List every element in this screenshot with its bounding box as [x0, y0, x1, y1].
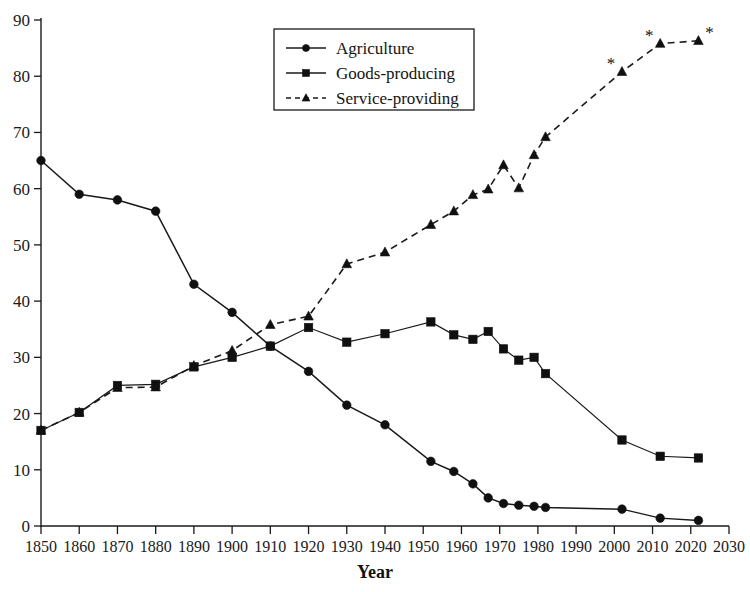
projected-value-asterisk: * [607, 54, 616, 73]
x-tick-label: 2000 [598, 538, 630, 555]
y-tick-label: 10 [13, 461, 30, 480]
data-point-circle [75, 190, 84, 199]
y-tick-label: 90 [13, 11, 30, 30]
data-point-triangle [514, 183, 524, 192]
data-point-square [469, 335, 477, 343]
y-tick-label: 60 [13, 180, 30, 199]
data-point-triangle [617, 67, 627, 76]
data-point-circle [228, 308, 237, 317]
y-tick-label: 80 [13, 67, 30, 86]
data-point-circle [151, 207, 160, 216]
legend-label: Goods-producing [336, 64, 455, 83]
data-point-square [484, 327, 492, 335]
data-point-triangle [266, 320, 276, 329]
x-tick-label: 1970 [484, 538, 516, 555]
y-tick-label: 30 [13, 348, 30, 367]
y-axis: 0102030405060708090 [13, 11, 41, 536]
y-tick-label: 20 [13, 405, 30, 424]
x-axis-title: Year [357, 562, 393, 582]
x-tick-label: 1980 [522, 538, 554, 555]
data-point-circle [304, 367, 313, 376]
x-tick-label: 1960 [445, 538, 477, 555]
data-point-circle [190, 280, 199, 289]
data-point-square [515, 356, 523, 364]
data-point-circle [514, 501, 523, 510]
data-point-triangle [529, 150, 539, 159]
chart-container: 0102030405060708090 18501860187018801890… [0, 0, 750, 592]
projection-asterisks: *** [607, 23, 714, 73]
data-point-square [427, 318, 435, 326]
x-tick-label: 1940 [369, 538, 401, 555]
data-point-circle [656, 514, 665, 523]
series-goods-producing [37, 318, 703, 462]
data-point-circle [530, 502, 539, 511]
x-tick-label: 1950 [407, 538, 439, 555]
data-point-circle [302, 44, 309, 51]
x-tick-label: 1990 [560, 538, 592, 555]
projected-value-asterisk: * [645, 26, 654, 45]
y-tick-label: 50 [13, 236, 30, 255]
y-tick-label: 0 [22, 517, 31, 536]
data-point-square [541, 369, 549, 377]
data-point-circle [541, 503, 550, 512]
data-point-triangle [227, 345, 237, 354]
data-point-square [266, 342, 274, 350]
data-point-circle [37, 156, 46, 165]
data-point-circle [381, 421, 390, 430]
x-tick-label: 1860 [63, 538, 95, 555]
x-tick-label: 2010 [637, 538, 669, 555]
data-point-square [694, 454, 702, 462]
data-point-circle [484, 494, 493, 503]
legend-label: Service-providing [336, 89, 459, 108]
data-point-square [499, 345, 507, 353]
series-agriculture [37, 156, 703, 524]
data-point-triangle [655, 38, 665, 47]
x-tick-label: 2020 [675, 538, 707, 555]
x-tick-label: 1850 [25, 538, 57, 555]
employment-share-line-chart: 0102030405060708090 18501860187018801890… [0, 0, 750, 592]
x-tick-label: 1930 [331, 538, 363, 555]
data-point-triangle [426, 219, 436, 228]
data-point-square [381, 330, 389, 338]
data-point-triangle [499, 160, 509, 169]
data-point-triangle [483, 184, 493, 193]
data-point-circle [469, 480, 478, 489]
x-axis-ticks: 1850186018701880189019001910192019301940… [25, 526, 745, 555]
data-point-square [303, 70, 310, 77]
x-tick-label: 1900 [216, 538, 248, 555]
data-point-square [618, 436, 626, 444]
data-point-circle [499, 499, 508, 508]
data-point-square [656, 452, 664, 460]
y-tick-label: 70 [13, 123, 30, 142]
x-axis: 1850186018701880189019001910192019301940… [25, 526, 745, 555]
projected-value-asterisk: * [705, 23, 714, 42]
data-point-square [450, 331, 458, 339]
chart-legend: AgricultureGoods-producingService-provid… [274, 29, 474, 110]
data-point-triangle [380, 247, 390, 256]
legend-label: Agriculture [336, 39, 414, 58]
data-point-circle [427, 457, 436, 466]
series-path [41, 322, 698, 458]
data-point-circle [113, 196, 122, 205]
data-point-square [304, 323, 312, 331]
x-tick-label: 1890 [178, 538, 210, 555]
data-point-circle [618, 505, 627, 514]
x-tick-label: 1910 [254, 538, 286, 555]
x-tick-label: 1880 [140, 538, 172, 555]
x-tick-label: 2030 [713, 538, 745, 555]
y-axis-ticks: 0102030405060708090 [13, 11, 41, 536]
series-path [41, 161, 698, 521]
data-point-square [530, 353, 538, 361]
x-tick-label: 1920 [293, 538, 325, 555]
data-point-triangle [694, 36, 704, 45]
data-point-square [343, 338, 351, 346]
x-tick-label: 1870 [101, 538, 133, 555]
data-point-circle [342, 401, 351, 410]
data-point-circle [694, 516, 703, 525]
data-point-circle [450, 467, 459, 476]
y-tick-label: 40 [13, 292, 30, 311]
